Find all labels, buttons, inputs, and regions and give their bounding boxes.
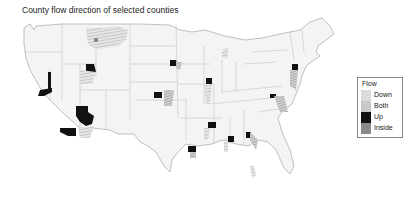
swatch-inside xyxy=(361,123,371,134)
region-up-louisiana xyxy=(188,146,196,152)
legend-item-up: Up xyxy=(361,112,401,123)
region-down-florida xyxy=(250,166,256,178)
region-both-louisiana xyxy=(190,152,196,158)
legend-item-both: Both xyxy=(361,101,401,112)
region-up-tennessee xyxy=(208,122,216,128)
swatch-down xyxy=(361,90,371,101)
region-up-la xyxy=(60,128,76,136)
region-up-illinois xyxy=(206,78,212,84)
region-up-kansas xyxy=(154,92,162,98)
region-up-newyork xyxy=(292,64,298,70)
region-down-alabama xyxy=(224,138,228,152)
swatch-up xyxy=(361,112,371,123)
swatch-both xyxy=(361,101,371,112)
legend-item-inside: Inside xyxy=(361,123,401,134)
region-up-nevada xyxy=(48,72,51,90)
region-inside-montana xyxy=(94,38,98,42)
us-county-map xyxy=(0,0,410,201)
legend-item-down: Down xyxy=(361,90,401,101)
region-down-socal xyxy=(78,126,94,138)
map-legend: Flow Down Both Up Inside xyxy=(357,77,403,138)
region-up-alabama xyxy=(228,136,234,142)
us-outline xyxy=(24,18,334,174)
legend-title: Flow xyxy=(362,80,377,87)
